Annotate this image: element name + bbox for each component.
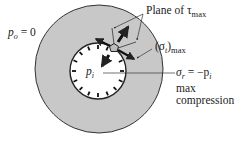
tau-subscript: max <box>192 9 207 19</box>
cylinder-bore <box>70 43 126 99</box>
sigma-r-value-subscript: i <box>209 72 211 81</box>
max-compression-label-line1: max <box>176 83 196 95</box>
max-compression-label-line2: compression <box>176 95 234 107</box>
plane-label-text: Plane of <box>146 4 187 16</box>
radial-stress-label: σr = −pi <box>176 67 212 81</box>
hoop-stress-symbol: (σ <box>155 40 165 52</box>
plane-of-max-shear-label: Plane of τmax <box>146 5 206 19</box>
sigma-r-value: = −p <box>185 66 209 78</box>
inner-pressure-subscript: i <box>92 71 94 80</box>
hoop-stress-max: max <box>171 45 186 55</box>
outer-pressure-value: = 0 <box>18 26 36 38</box>
outer-pressure-label: po = 0 <box>8 27 36 41</box>
inner-pressure-label: pi <box>86 66 94 80</box>
hoop-stress-label: (σt)max <box>155 41 186 55</box>
